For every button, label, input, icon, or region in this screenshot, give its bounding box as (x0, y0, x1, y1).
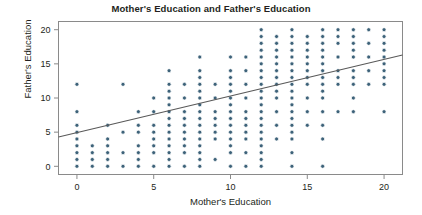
data-point (229, 164, 233, 168)
data-point (259, 69, 263, 73)
data-point (106, 144, 110, 148)
data-point (275, 55, 279, 59)
data-point (305, 35, 309, 39)
data-point (351, 28, 355, 32)
data-point (198, 157, 202, 161)
data-point (290, 28, 294, 32)
x-tick-label: 10 (225, 182, 235, 192)
data-point (259, 62, 263, 66)
data-point (167, 144, 171, 148)
data-point (367, 55, 371, 59)
data-point (182, 137, 186, 141)
data-point (351, 96, 355, 100)
data-point (198, 89, 202, 93)
data-point (321, 35, 325, 39)
data-point (167, 96, 171, 100)
data-point (213, 116, 217, 120)
data-point (305, 96, 309, 100)
data-point (382, 55, 386, 59)
data-point (290, 130, 294, 134)
data-point (259, 82, 263, 86)
data-point (305, 41, 309, 45)
data-point (136, 151, 140, 155)
data-point (382, 76, 386, 80)
data-point (229, 103, 233, 107)
data-point (290, 48, 294, 52)
data-point (382, 110, 386, 114)
data-point (167, 103, 171, 107)
axis-ticks (54, 30, 384, 179)
data-point (290, 137, 294, 141)
data-point (275, 137, 279, 141)
data-point (75, 157, 79, 161)
data-point (290, 103, 294, 107)
data-point (75, 110, 79, 114)
data-point (182, 82, 186, 86)
data-point (90, 157, 94, 161)
y-tick-label: 5 (45, 127, 50, 137)
data-point (121, 151, 125, 155)
data-point (259, 35, 263, 39)
data-point (167, 89, 171, 93)
data-point (275, 41, 279, 45)
data-point (198, 151, 202, 155)
data-point (290, 89, 294, 93)
data-point (152, 144, 156, 148)
data-point (290, 96, 294, 100)
data-point (321, 89, 325, 93)
data-point (259, 110, 263, 114)
y-tick-label: 10 (40, 93, 50, 103)
data-point (290, 55, 294, 59)
data-point (382, 41, 386, 45)
data-point (275, 123, 279, 127)
data-point (351, 110, 355, 114)
data-point (136, 110, 140, 114)
data-point (290, 41, 294, 45)
data-point (213, 130, 217, 134)
data-point (351, 69, 355, 73)
data-point (275, 76, 279, 80)
data-point (382, 62, 386, 66)
data-point (152, 123, 156, 127)
data-point (106, 157, 110, 161)
data-point (382, 82, 386, 86)
data-point (275, 96, 279, 100)
data-point (167, 116, 171, 120)
data-point (367, 82, 371, 86)
data-point (321, 41, 325, 45)
data-point (321, 28, 325, 32)
data-point (136, 157, 140, 161)
data-point (259, 48, 263, 52)
data-point (275, 89, 279, 93)
data-point (367, 28, 371, 32)
data-point (182, 123, 186, 127)
data-point (244, 82, 248, 86)
data-point (106, 151, 110, 155)
data-point (336, 76, 340, 80)
data-point (167, 82, 171, 86)
data-point (229, 55, 233, 59)
data-point (198, 69, 202, 73)
data-point (336, 35, 340, 39)
data-point (136, 123, 140, 127)
data-point (198, 137, 202, 141)
data-point (106, 137, 110, 141)
data-point (321, 48, 325, 52)
data-point (259, 151, 263, 155)
data-point (75, 137, 79, 141)
data-point (321, 69, 325, 73)
data-point (198, 76, 202, 80)
data-point (259, 157, 263, 161)
data-point (244, 110, 248, 114)
data-point (290, 151, 294, 155)
x-tick-label: 0 (74, 182, 79, 192)
data-point (198, 55, 202, 59)
data-point (351, 82, 355, 86)
data-point (275, 62, 279, 66)
data-point (244, 69, 248, 73)
data-point (121, 164, 125, 168)
y-tick-label: 20 (40, 25, 50, 35)
data-point (152, 164, 156, 168)
data-point (290, 76, 294, 80)
data-point (321, 164, 325, 168)
